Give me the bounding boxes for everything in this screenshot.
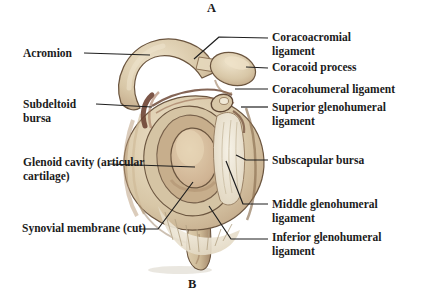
label-coracoacromial-ligament: Coracoacromial ligament <box>272 31 380 58</box>
label-synovial-membrane: Synovial membrane (cut) <box>22 222 160 236</box>
label-coracohumeral-ligament: Coracohumeral ligament <box>272 83 395 97</box>
label-inferior-glenohumeral-ligament: Inferior glenohumeral ligament <box>272 231 412 258</box>
label-acromion: Acromion <box>23 47 72 61</box>
label-subscapular-bursa: Subscapular bursa <box>272 154 364 168</box>
label-subdeltoid-bursa: Subdeltoid bursa <box>23 98 95 125</box>
shoulder-joint-figure: A B Acromion Subdeltoid bursa Glenoid ca… <box>0 0 430 291</box>
panel-label-a: A <box>207 1 216 16</box>
label-superior-glenohumeral-ligament: Superior glenohumeral ligament <box>272 101 414 128</box>
panel-label-b: B <box>188 277 196 291</box>
label-glenoid-cavity: Glenoid cavity (articular cartilage) <box>23 156 153 183</box>
label-coracoid-process: Coracoid process <box>272 61 356 75</box>
coracoid-process-bone <box>206 47 259 93</box>
label-middle-glenohumeral-ligament: Middle glenohumeral ligament <box>272 198 412 225</box>
